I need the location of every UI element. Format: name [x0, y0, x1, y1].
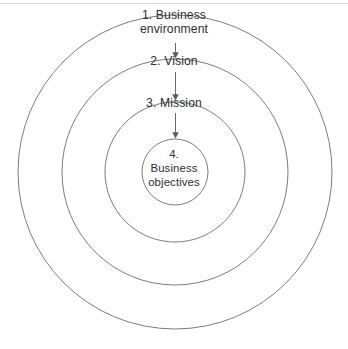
- ring-label-business-objectives: 4. Business objectives: [129, 148, 219, 190]
- ring-label-business-environment: 1. Business environment: [84, 9, 264, 36]
- concentric-circles-diagram: 1. Business environment 2. Vision 3. Mis…: [0, 0, 348, 349]
- ring-label-mission: 3. Mission: [94, 97, 254, 111]
- ring-label-vision: 2. Vision: [94, 55, 254, 69]
- arrow-mission-to-objectives: [172, 113, 179, 139]
